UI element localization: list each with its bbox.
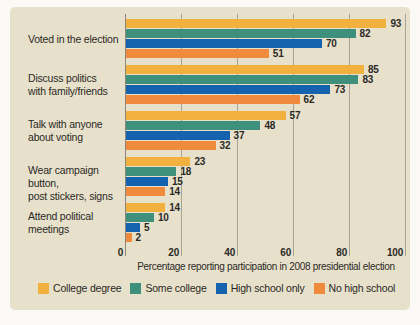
bar-high-school-only-group-2 bbox=[126, 131, 230, 140]
bar-some-college-group-0 bbox=[126, 29, 356, 38]
legend-item-college-degree: College degree bbox=[38, 282, 121, 294]
legend-swatch bbox=[130, 283, 141, 294]
gridline-100 bbox=[405, 14, 406, 256]
value-label: 51 bbox=[273, 49, 284, 59]
value-label: 48 bbox=[264, 121, 275, 131]
value-label: 10 bbox=[158, 213, 169, 223]
bar-high-school-only-group-4 bbox=[126, 223, 140, 232]
value-label: 14 bbox=[169, 187, 180, 197]
value-label: 73 bbox=[334, 85, 345, 95]
legend-item-some-college: Some college bbox=[130, 282, 206, 294]
value-label: 14 bbox=[169, 203, 180, 213]
legend-label: No high school bbox=[329, 282, 396, 294]
value-label: 70 bbox=[326, 39, 337, 49]
legend-swatch bbox=[216, 283, 227, 294]
bar-college-degree-group-2 bbox=[126, 111, 286, 120]
legend-item-no-high-school: No high school bbox=[314, 282, 396, 294]
legend-label: Some college bbox=[145, 282, 206, 294]
x-tick-100: 100 bbox=[373, 247, 403, 258]
value-label: 62 bbox=[304, 95, 315, 105]
x-tick-40: 40 bbox=[205, 247, 235, 258]
category-label-2: Talk with anyoneabout voting bbox=[28, 118, 128, 144]
bar-college-degree-group-0 bbox=[126, 19, 386, 28]
x-axis-label: Percentage reporting participation in 20… bbox=[118, 261, 414, 272]
bar-college-degree-group-4 bbox=[126, 203, 165, 212]
bar-high-school-only-group-3 bbox=[126, 177, 168, 186]
bar-no-high-school-group-3 bbox=[126, 187, 165, 196]
x-tick-20: 20 bbox=[149, 247, 179, 258]
bar-high-school-only-group-0 bbox=[126, 39, 322, 48]
value-label: 93 bbox=[390, 19, 401, 29]
category-label-0: Voted in the election bbox=[28, 33, 128, 46]
legend-swatch bbox=[38, 283, 49, 294]
bar-college-degree-group-1 bbox=[126, 65, 364, 74]
legend-label: College degree bbox=[53, 282, 121, 294]
x-tick-0: 0 bbox=[93, 247, 123, 258]
legend: College degreeSome collegeHigh school on… bbox=[38, 282, 395, 294]
value-label: 2 bbox=[136, 233, 141, 243]
bar-no-high-school-group-1 bbox=[126, 95, 300, 104]
value-label: 82 bbox=[360, 29, 371, 39]
gridline-80 bbox=[349, 14, 350, 256]
bar-some-college-group-3 bbox=[126, 167, 176, 176]
x-tick-60: 60 bbox=[261, 247, 291, 258]
bar-some-college-group-1 bbox=[126, 75, 358, 84]
category-label-3: Wear campaign button,post stickers, sign… bbox=[28, 164, 128, 203]
bar-no-high-school-group-2 bbox=[126, 141, 216, 150]
legend-swatch bbox=[314, 283, 325, 294]
x-tick-80: 80 bbox=[317, 247, 347, 258]
legend-label: High school only bbox=[231, 282, 305, 294]
bar-high-school-only-group-1 bbox=[126, 85, 330, 94]
value-label: 37 bbox=[234, 131, 245, 141]
gridline-60 bbox=[293, 14, 294, 256]
bar-college-degree-group-3 bbox=[126, 157, 190, 166]
bar-some-college-group-4 bbox=[126, 213, 154, 222]
category-label-1: Discuss politicswith family/friends bbox=[28, 72, 128, 98]
legend-item-high-school-only: High school only bbox=[216, 282, 305, 294]
bar-some-college-group-2 bbox=[126, 121, 260, 130]
category-label-4: Attend politicalmeetings bbox=[28, 210, 128, 236]
bar-no-high-school-group-0 bbox=[126, 49, 269, 58]
value-label: 57 bbox=[290, 111, 301, 121]
value-label: 23 bbox=[194, 157, 205, 167]
screenshot-root: { "page": { "background": "#FAF9F5", "pa… bbox=[0, 0, 420, 325]
value-label: 32 bbox=[220, 141, 231, 151]
value-label: 5 bbox=[144, 223, 149, 233]
value-label: 83 bbox=[362, 75, 373, 85]
